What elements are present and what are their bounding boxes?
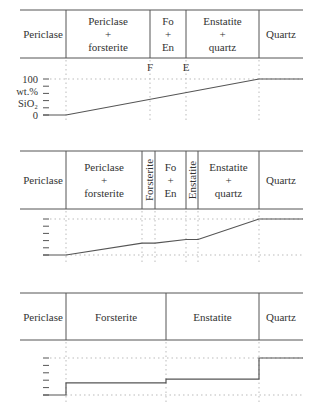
phase-label: Periclase (84, 161, 124, 173)
phase-label: Periclase (23, 28, 63, 40)
phase-cell: Fo+En (155, 151, 177, 209)
phase-label: Fo (162, 15, 174, 27)
phase-label: quartz (215, 187, 243, 199)
phase-cell: Enstatite+quartz (198, 151, 248, 209)
phase-header-row: PericlasePericlase+forsteriteFo+EnEnstat… (20, 10, 303, 58)
phase-cell: Periclase (23, 28, 63, 40)
phase-label: Enstatite (193, 311, 232, 323)
phase-label: + (219, 28, 225, 40)
phase-header-row: PericlasePericlase+forsteriteForsteriteF… (20, 151, 303, 209)
phase-header-row: PericlaseForsteriteEnstatiteQuartz (20, 293, 303, 340)
phase-cell: Forsterite (142, 151, 155, 209)
phase-label: Fo (165, 161, 177, 173)
phase-label: Quartz (266, 174, 296, 186)
phase-label: Periclase (88, 15, 128, 27)
phase-cell: Enstatite+quartz (186, 10, 242, 58)
phase-cell: Fo+En (150, 10, 175, 58)
phase-label: quartz (209, 41, 237, 53)
silica-profile-line (43, 219, 303, 255)
phase-label: Forsterite (95, 311, 137, 323)
panel-3: PericlaseForsteriteEnstatiteQuartz (20, 293, 303, 403)
axis-label: SiO₂ (18, 98, 38, 109)
phase-label: En (162, 41, 175, 53)
panel-1: PericlasePericlase+forsteriteFo+EnEnstat… (16, 10, 303, 123)
phase-cell: Enstatite (186, 151, 198, 209)
phase-label: + (101, 174, 107, 186)
phase-label: Periclase (23, 174, 63, 186)
phase-label: + (167, 174, 173, 186)
silica-profile-graph (43, 211, 303, 263)
panel-2: PericlasePericlase+forsteriteForsteriteF… (20, 151, 303, 263)
phase-cell: Quartz (259, 10, 296, 58)
phase-label: Enstatite (186, 161, 198, 200)
phase-label: forsterite (88, 41, 128, 53)
phase-cell: Periclase (23, 174, 63, 186)
phase-cell: Enstatite (166, 293, 232, 340)
axis-tick-label: 0 (33, 110, 38, 121)
silica-profile-line (43, 358, 303, 395)
phase-label: + (165, 28, 171, 40)
phase-label: Enstatite (203, 15, 242, 27)
phase-cell: Quartz (259, 293, 296, 340)
phase-label: Quartz (266, 28, 296, 40)
axis-label: wt.% (16, 86, 38, 97)
phase-label: + (105, 28, 111, 40)
phase-label: + (225, 174, 231, 186)
phase-cell: Quartz (259, 151, 296, 209)
silica-profile-line (43, 79, 303, 115)
axis-tick-label: 100 (22, 74, 38, 85)
phase-cell: Periclase (23, 311, 63, 323)
phase-cell: Periclase+forsterite (66, 10, 128, 58)
composition-marker: F (147, 61, 153, 73)
phase-cell: Periclase+forsterite (66, 151, 124, 209)
phase-label: En (164, 187, 177, 199)
phase-label: Quartz (266, 311, 296, 323)
silica-profile-graph: 1000wt.%SiO₂ (16, 60, 303, 123)
silica-profile-graph (43, 342, 303, 403)
phase-cell: Forsterite (66, 293, 137, 340)
composition-marker: E (183, 61, 190, 73)
phase-label: forsterite (84, 187, 124, 199)
phase-label: Forsterite (143, 159, 155, 201)
mineral-assemblage-diagram: PericlasePericlase+forsteriteFo+EnEnstat… (0, 0, 315, 409)
phase-label: Periclase (23, 311, 63, 323)
phase-label: Enstatite (209, 161, 248, 173)
